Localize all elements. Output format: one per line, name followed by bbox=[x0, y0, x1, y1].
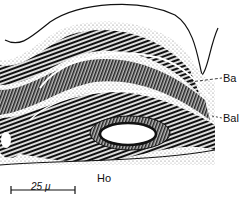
label-ba: Ba bbox=[223, 73, 236, 84]
scale-bar-label: 25 μ bbox=[31, 181, 50, 192]
micrograph-figure: Ba Bal Ho 25 μ bbox=[0, 0, 246, 198]
tissue-drawing bbox=[0, 0, 246, 198]
label-bal: Bal bbox=[223, 113, 239, 124]
label-ho: Ho bbox=[97, 173, 111, 184]
